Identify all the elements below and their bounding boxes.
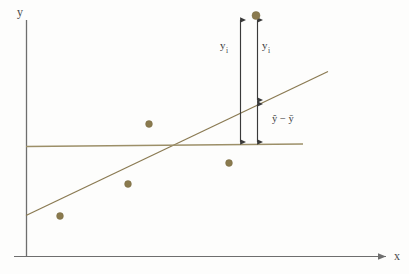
mean-line — [26, 144, 303, 147]
data-point — [226, 160, 233, 167]
data-point — [125, 181, 132, 188]
unexplained-deviation-label: yi — [262, 40, 270, 54]
unexplained-deviation-label-subscript: i — [268, 46, 270, 55]
total-deviation-label-base: y — [220, 39, 226, 51]
data-point — [57, 213, 64, 220]
explained-deviation-label: ŷ − ȳ — [272, 114, 294, 125]
plot-canvas — [0, 0, 409, 274]
regression-decomposition-diagram: y x yi yi ŷ − ȳ — [0, 0, 409, 274]
unexplained-deviation-label-base: y — [262, 39, 268, 51]
data-points — [57, 12, 260, 220]
y-axis-label: y — [17, 6, 23, 18]
data-point — [146, 121, 153, 128]
regression-line — [26, 72, 328, 216]
total-deviation-label-subscript: i — [226, 46, 228, 55]
total-deviation-label: yi — [220, 40, 228, 54]
data-point-highlighted — [252, 12, 260, 20]
x-axis-label: x — [394, 250, 400, 262]
